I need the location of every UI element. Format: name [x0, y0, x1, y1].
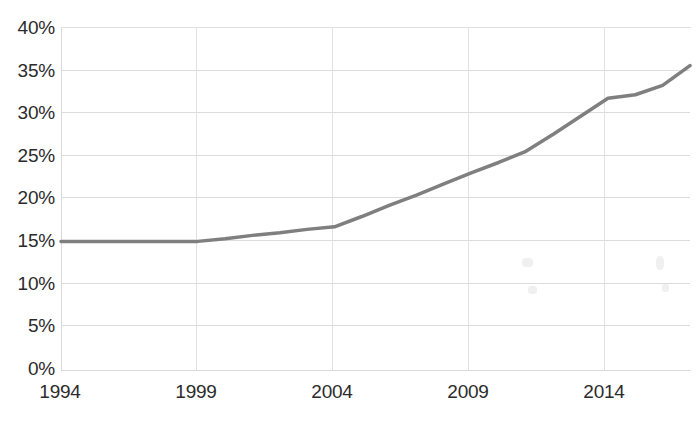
gridline-15: [61, 240, 690, 241]
y-tick-label: 40%: [3, 18, 55, 37]
vgridline-2009: [468, 27, 469, 370]
vgridline-2014: [604, 27, 605, 370]
gridline-5: [61, 325, 690, 326]
y-tick-label: 20%: [3, 188, 55, 207]
gridline-30: [61, 112, 690, 113]
scan-artifact: [656, 256, 664, 270]
scan-artifact: [528, 286, 537, 294]
y-tick-label: 10%: [3, 274, 55, 293]
y-tick-label: 15%: [3, 231, 55, 250]
series-layer: [0, 0, 697, 422]
y-tick-label: 35%: [3, 61, 55, 80]
y-axis-labels: 40% 35% 30% 25% 20% 15% 10% 5% 0%: [0, 0, 55, 422]
data-line-series-0: [61, 66, 690, 242]
line-chart: 40% 35% 30% 25% 20% 15% 10% 5% 0% 1994 1…: [0, 0, 697, 422]
y-tick-label: 5%: [3, 316, 55, 335]
y-tick-label: 30%: [3, 103, 55, 122]
gridline-40: [61, 27, 691, 28]
x-tick-label: 1999: [175, 382, 216, 401]
scan-artifact: [522, 258, 533, 267]
x-axis-line: [61, 370, 691, 371]
x-tick-label: 2009: [447, 382, 488, 401]
gridline-20: [61, 197, 690, 198]
x-tick-label: 1994: [39, 382, 80, 401]
vgridline-2004: [332, 27, 333, 370]
x-tick-label: 2004: [311, 382, 352, 401]
gridline-35: [61, 70, 690, 71]
y-tick-label: 0%: [3, 359, 55, 378]
y-axis-line: [61, 27, 62, 371]
y-tick-label: 25%: [3, 146, 55, 165]
x-tick-label: 2014: [583, 382, 624, 401]
gridline-10: [61, 283, 690, 284]
scan-artifact: [662, 284, 669, 292]
vgridline-1999: [196, 27, 197, 370]
gridline-25: [61, 155, 690, 156]
